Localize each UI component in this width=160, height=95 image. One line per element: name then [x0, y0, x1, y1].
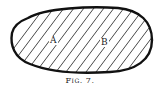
figure-caption: Fig. 7. — [0, 76, 160, 85]
region-label-a: A — [49, 36, 58, 45]
region-label-b: B — [100, 38, 109, 47]
